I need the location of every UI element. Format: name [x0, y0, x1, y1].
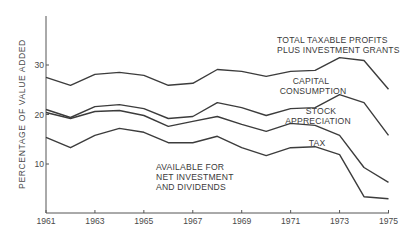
annotation-capital-line1: CAPITAL [293, 76, 330, 86]
x-tick-label: 1975 [379, 216, 398, 226]
x-tick-label: 1971 [281, 216, 300, 226]
series-line-1 [46, 58, 389, 90]
annotation-capital-line2: CONSUMPTION [280, 86, 347, 96]
annotation-available-line2: NET INVESTMENT [156, 172, 234, 182]
annotation-available-line1: AVAILABLE FOR [156, 162, 224, 172]
annotation-tax-label: TAX [309, 138, 326, 148]
x-tick-label: 1973 [330, 216, 349, 226]
x-ticks: 19611963196519671969197119731975 [36, 210, 398, 226]
annotation-stock-line1: STOCK [306, 106, 337, 116]
annotation-available: AVAILABLE FOR NET INVESTMENT AND DIVIDEN… [156, 162, 234, 192]
y-tick-label: 10 [34, 159, 44, 169]
annotation-stock-line2: APPRECIATION [285, 116, 351, 126]
line-chart: 19611963196519671969197119731975 102030 … [0, 0, 411, 237]
series-line-2 [46, 95, 389, 136]
x-tick-label: 1961 [36, 216, 55, 226]
x-tick-label: 1963 [85, 216, 104, 226]
y-axis-label: PERCENTAGE OF VALUE ADDED [17, 39, 27, 189]
annotation-tax: TAX [309, 138, 326, 148]
x-tick-label: 1965 [134, 216, 153, 226]
y-tick-label: 30 [34, 60, 44, 70]
y-tick-label: 20 [34, 110, 44, 120]
x-tick-label: 1969 [232, 216, 251, 226]
y-ticks: 102030 [34, 60, 49, 169]
annotation-capital-consumption: CAPITAL CONSUMPTION [280, 76, 347, 96]
annotation-available-line3: AND DIVIDENDS [156, 182, 226, 192]
annotation-total: TOTAL TAXABLE PROFITS PLUS INVESTMENT GR… [277, 35, 400, 55]
annotation-total-line1: TOTAL TAXABLE PROFITS [277, 35, 388, 45]
annotation-total-line2: PLUS INVESTMENT GRANTS [277, 45, 400, 55]
x-tick-label: 1967 [183, 216, 202, 226]
